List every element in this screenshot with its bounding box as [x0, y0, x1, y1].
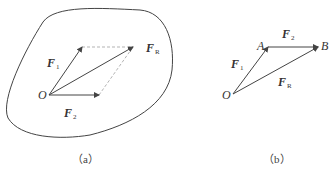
label-fr-b: FR [278, 76, 292, 92]
parallelogram-right-edge [99, 47, 133, 95]
label-f1-b: F1 [231, 58, 244, 74]
vector-fr-b [233, 47, 318, 94]
label-origin-a: O [38, 89, 47, 101]
label-point-a: A [257, 40, 264, 52]
caption-a: （a） [72, 150, 99, 166]
label-f2-a: F2 [64, 107, 77, 123]
label-point-b: B [321, 40, 328, 52]
vector-fr-a [49, 47, 133, 95]
caption-b: （b） [263, 150, 291, 166]
label-f1-a: F1 [47, 57, 60, 73]
label-origin-b: O [222, 89, 231, 101]
rigid-body-outline [6, 8, 172, 137]
label-f2-b: F2 [282, 28, 295, 44]
label-fr-a: FR [146, 42, 160, 58]
